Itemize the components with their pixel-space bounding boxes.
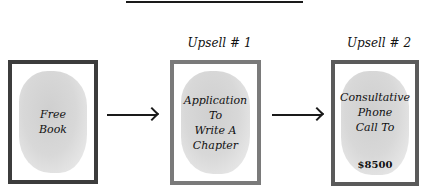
upsell-2-box: Consultative Phone Call To $8500: [331, 60, 419, 186]
box-text-line: Call To: [356, 120, 395, 135]
box-text-line: Book: [39, 122, 67, 137]
price-tag: $8500: [358, 157, 393, 172]
upsell-1-box: Application To Write A Chapter: [170, 60, 261, 185]
box-text-line: Consultative: [340, 90, 410, 105]
box-text-line: To: [209, 108, 222, 123]
arrow-right-icon: [107, 108, 159, 122]
box-text-line: Write A: [195, 123, 237, 138]
box-text-line: Phone: [358, 105, 393, 120]
arrow-right-icon: [272, 108, 324, 122]
box-text-line: Application: [184, 93, 247, 108]
title-underline: [126, 1, 303, 3]
upsell-1-label: Upsell # 1: [170, 36, 269, 50]
box-text-line: Free: [40, 107, 66, 122]
upsell-2-label: Upsell # 2: [331, 36, 427, 50]
free-book-box: Free Book: [8, 60, 98, 184]
box-text-line: Chapter: [193, 138, 238, 153]
